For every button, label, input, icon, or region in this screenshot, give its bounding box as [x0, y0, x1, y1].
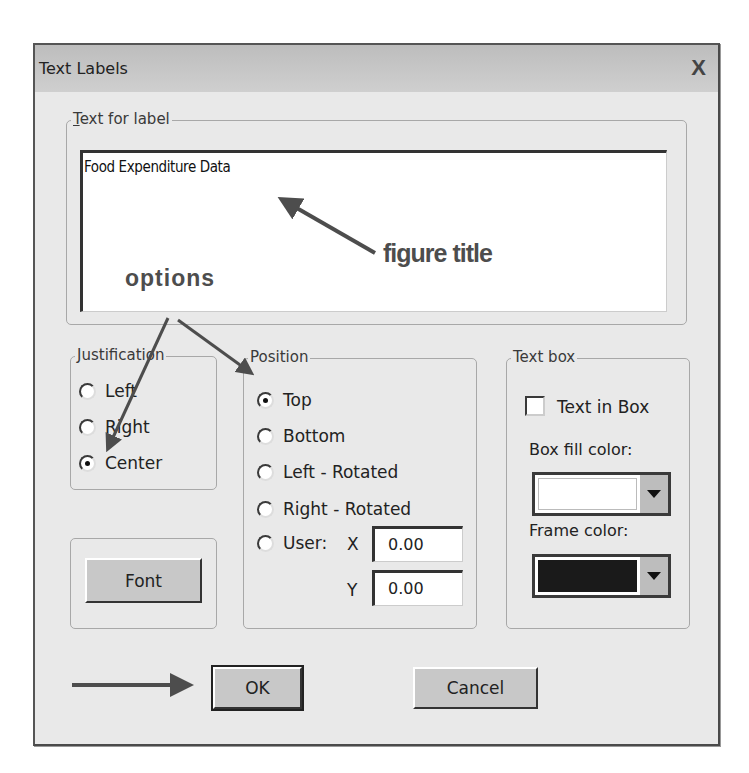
box-fill-color-picker[interactable]	[532, 472, 671, 516]
radio-icon[interactable]	[257, 464, 274, 481]
chevron-down-icon	[647, 572, 661, 580]
radio-position-left-rotated[interactable]: Left - Rotated	[257, 462, 398, 482]
chevron-down-icon	[647, 490, 661, 498]
text-box-group: Text box Text in Box Box fill color: Fra…	[506, 358, 690, 629]
frame-color-picker[interactable]	[532, 554, 671, 598]
radio-icon[interactable]	[79, 383, 96, 400]
text-labels-dialog: Text Labels X Text for label Food Expend…	[33, 43, 720, 746]
text-box-legend: Text box	[511, 348, 577, 366]
frame-color-label: Frame color:	[529, 521, 628, 540]
radio-label: Left	[105, 381, 137, 401]
box-fill-swatch	[538, 478, 637, 510]
y-label: Y	[347, 580, 357, 600]
dropdown-button[interactable]	[638, 557, 668, 595]
text-for-label-group: Text for label Food Expenditure Data	[66, 120, 687, 325]
radio-justify-right[interactable]: Right	[79, 417, 150, 437]
position-group: Position Top Bottom Left - Rotated Right…	[243, 358, 477, 629]
user-y-input[interactable]: 0.00	[372, 570, 463, 606]
radio-label: User:	[283, 533, 327, 553]
radio-icon-checked[interactable]	[79, 455, 96, 472]
ok-button[interactable]: OK	[213, 667, 302, 709]
radio-icon[interactable]	[257, 501, 274, 518]
radio-position-right-rotated[interactable]: Right - Rotated	[257, 499, 411, 519]
user-x-input[interactable]: 0.00	[372, 526, 463, 562]
text-in-box-label: Text in Box	[557, 397, 649, 417]
dropdown-button[interactable]	[638, 475, 668, 513]
justification-legend: Justification	[75, 346, 166, 364]
dialog-title: Text Labels	[39, 59, 128, 78]
font-group: Font	[70, 538, 217, 629]
position-legend: Position	[248, 348, 310, 366]
radio-label: Top	[283, 390, 312, 410]
radio-position-user[interactable]: User:	[257, 533, 327, 553]
radio-justify-left[interactable]: Left	[79, 381, 137, 401]
box-fill-color-label: Box fill color:	[529, 440, 632, 459]
radio-icon[interactable]	[257, 428, 274, 445]
radio-label: Left - Rotated	[283, 462, 398, 482]
font-button[interactable]: Font	[85, 558, 202, 603]
cancel-button[interactable]: Cancel	[413, 667, 538, 709]
radio-position-bottom[interactable]: Bottom	[257, 426, 345, 446]
text-for-label-legend: Text for label	[71, 110, 172, 128]
frame-color-swatch	[538, 560, 637, 592]
radio-position-top[interactable]: Top	[257, 390, 312, 410]
radio-label: Center	[105, 453, 162, 473]
annotation-options: options	[125, 265, 215, 292]
justification-group: Justification Left Right Center	[70, 356, 217, 490]
radio-label: Bottom	[283, 426, 345, 446]
x-label: X	[347, 534, 359, 554]
title-bar: Text Labels X	[35, 45, 718, 92]
annotation-figure-title: figure title	[383, 239, 492, 268]
mnemonic-char: T	[73, 110, 80, 128]
text-in-box-checkbox[interactable]	[525, 396, 545, 416]
radio-icon[interactable]	[257, 535, 274, 552]
legend-text: ext for label	[80, 110, 170, 128]
radio-label: Right - Rotated	[283, 499, 411, 519]
radio-label: Right	[105, 417, 150, 437]
radio-justify-center[interactable]: Center	[79, 453, 162, 473]
radio-icon[interactable]	[79, 419, 96, 436]
radio-icon-checked[interactable]	[257, 392, 274, 409]
close-icon[interactable]: X	[691, 55, 706, 81]
